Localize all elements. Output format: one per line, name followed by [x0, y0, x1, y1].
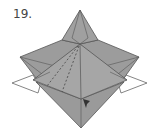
- origami-diagram: [0, 0, 159, 136]
- top-point: [62, 10, 98, 44]
